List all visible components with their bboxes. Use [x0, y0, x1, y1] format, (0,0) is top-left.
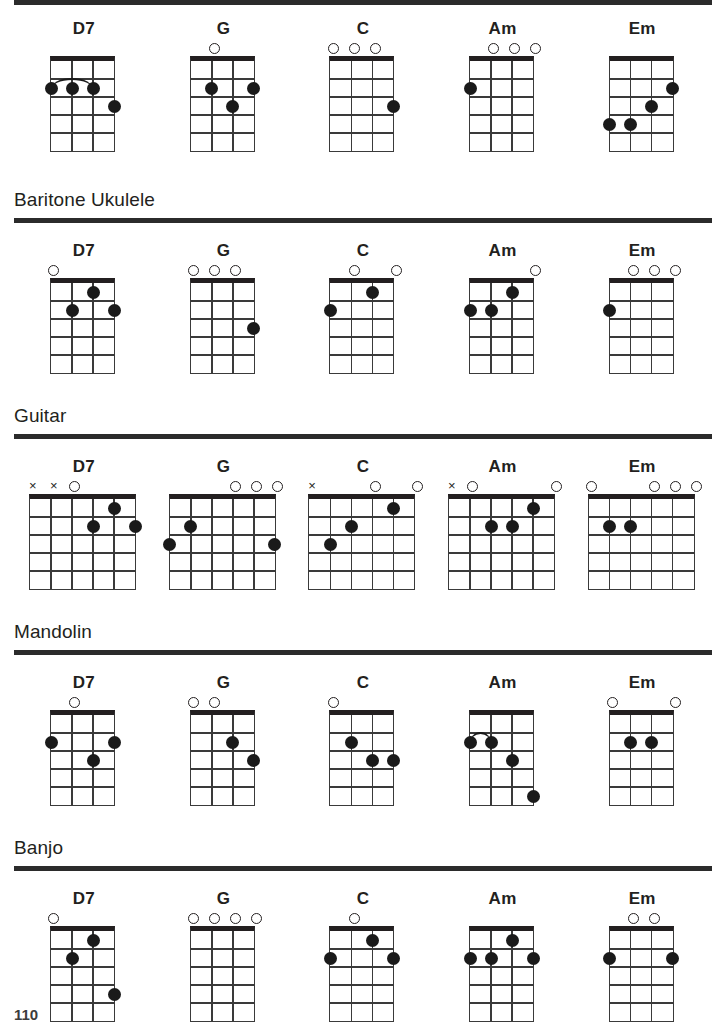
open-string-icon: [230, 265, 241, 276]
string-markers: [329, 43, 396, 56]
instrument-section-guitar: GuitarD7GCAmEm: [0, 404, 726, 590]
finger-dot: [624, 118, 637, 131]
open-string-icon: [251, 913, 262, 924]
finger-dot: [645, 100, 658, 113]
chord-cell: G: [154, 889, 294, 1022]
chord-cell: Am: [433, 673, 573, 806]
open-string-icon: [530, 265, 541, 276]
open-string-icon: [670, 481, 681, 492]
string-markers: [469, 913, 536, 926]
chord-diagram: [29, 481, 138, 590]
finger-dot: [66, 952, 79, 965]
fret-line: [610, 96, 673, 98]
chord-name: G: [217, 19, 231, 38]
section-divider: [14, 434, 712, 439]
fret-line: [470, 318, 533, 320]
chord-diagram: [190, 265, 257, 374]
finger-dot: [485, 304, 498, 317]
chord-name: Am: [489, 889, 517, 908]
chord-diagram: [329, 265, 396, 374]
chord-diagram: [329, 697, 396, 806]
fret-line: [330, 78, 393, 80]
chord-cell: G: [154, 673, 294, 806]
string-line: [651, 931, 653, 1021]
chord-diagram: [169, 481, 278, 590]
section-title: Guitar: [14, 404, 726, 428]
open-string-icon: [349, 913, 360, 924]
fret-line: [470, 132, 533, 134]
finger-dot: [247, 754, 260, 767]
chord-name: C: [357, 241, 370, 260]
string-line: [372, 499, 374, 589]
chord-diagram: [609, 913, 676, 1022]
fret-line: [610, 78, 673, 80]
section-divider-top: [14, 0, 712, 5]
string-line: [232, 283, 234, 373]
fret-line: [191, 750, 254, 752]
string-markers: [329, 697, 396, 710]
fret-line: [30, 534, 135, 536]
chord-name: Am: [489, 241, 517, 260]
finger-dot: [387, 502, 400, 515]
string-line: [630, 283, 632, 373]
finger-dot: [108, 100, 121, 113]
finger-dot: [624, 520, 637, 533]
open-string-icon: [586, 481, 597, 492]
open-string-icon: [230, 481, 241, 492]
mute-string-icon: [307, 481, 318, 492]
chord-cell: C: [293, 457, 433, 590]
string-line: [232, 715, 234, 805]
finger-dot: [45, 82, 58, 95]
chord-cell: D7: [14, 673, 154, 806]
finger-dot: [324, 538, 337, 551]
string-line: [92, 499, 94, 589]
finger-dot: [506, 754, 519, 767]
string-markers: [190, 697, 257, 710]
section-title: Banjo: [14, 836, 726, 860]
fretboard-grid: [469, 926, 534, 1022]
chord-cell: Em: [572, 19, 712, 152]
finger-dot: [624, 736, 637, 749]
fret-line: [309, 534, 414, 536]
open-string-icon: [488, 43, 499, 54]
fret-line: [51, 750, 114, 752]
string-markers: [190, 265, 257, 278]
fretboard-grid: [190, 56, 255, 152]
fret-line: [330, 96, 393, 98]
chord-name: Am: [489, 19, 517, 38]
open-string-icon: [551, 481, 562, 492]
fretboard-grid: [329, 710, 394, 806]
fret-line: [610, 966, 673, 968]
open-string-icon: [509, 43, 520, 54]
fret-line: [309, 570, 414, 572]
string-line: [372, 61, 374, 151]
open-string-icon: [272, 481, 283, 492]
string-markers: [329, 913, 396, 926]
fretboard-grid: [190, 926, 255, 1022]
finger-dot: [464, 304, 477, 317]
fret-line: [610, 948, 673, 950]
fret-line: [51, 318, 114, 320]
fret-line: [330, 318, 393, 320]
chord-diagram: [448, 481, 557, 590]
open-string-icon: [251, 481, 262, 492]
section-divider: [14, 866, 712, 871]
chord-diagram: [190, 697, 257, 806]
open-string-icon: [230, 913, 241, 924]
fret-line: [191, 300, 254, 302]
chord-cell: C: [293, 19, 433, 152]
fret-line: [51, 96, 114, 98]
fret-line: [191, 732, 254, 734]
chord-name: Em: [629, 457, 656, 476]
string-line: [490, 283, 492, 373]
string-line: [50, 499, 52, 589]
fret-line: [170, 570, 275, 572]
fret-line: [191, 114, 254, 116]
chord-diagram: [329, 913, 396, 1022]
fret-line: [51, 300, 114, 302]
chord-name: G: [217, 889, 231, 908]
fretboard-grid: [609, 56, 674, 152]
string-markers: [29, 481, 138, 494]
finger-dot: [603, 118, 616, 131]
chord-name: G: [217, 241, 231, 260]
